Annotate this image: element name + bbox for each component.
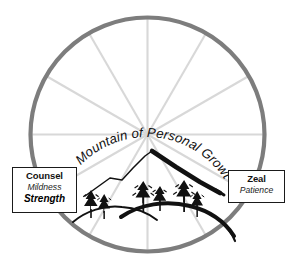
spoke-120deg <box>89 33 148 134</box>
mountain-right-slope-taper <box>216 190 224 195</box>
wheel-diagram: Mountain of Personal Growth Counsel Mild… <box>0 0 293 270</box>
right-tree-cluster <box>133 180 205 217</box>
wheel-graphic <box>0 0 293 270</box>
patience-label: Patience <box>233 186 280 196</box>
left-hill-ridge <box>73 207 157 222</box>
counsel-label: Counsel <box>17 171 72 182</box>
spoke-240deg <box>89 135 148 236</box>
mildness-label: Mildness <box>17 183 72 193</box>
spoke-60deg <box>148 33 207 134</box>
zeal-label: Zeal <box>233 174 280 185</box>
spoke-30deg <box>148 76 249 135</box>
spoke-150deg <box>46 76 147 135</box>
strength-label: Strength <box>17 193 72 204</box>
zeal-box[interactable]: Zeal Patience <box>228 170 285 203</box>
tree-center-right <box>153 186 167 211</box>
counsel-box[interactable]: Counsel Mildness Strength <box>12 167 77 213</box>
